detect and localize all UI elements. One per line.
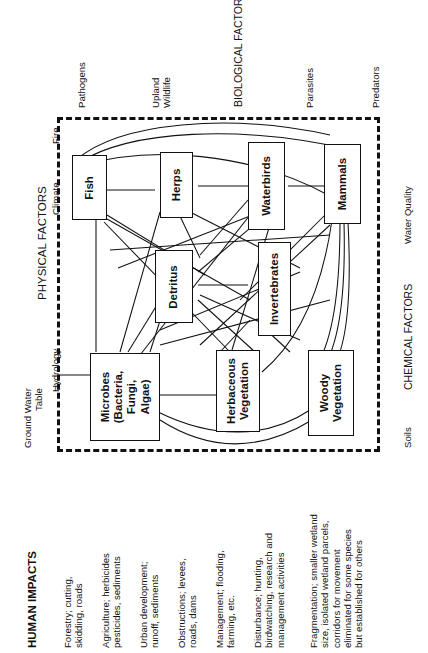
node-herps[interactable]: Herps [160,152,193,218]
node-mammals[interactable]: Mammals [324,144,361,224]
node-microbes-label: Microbes (Bacteria, Fungi, Algae) [99,371,152,423]
node-detritus-label: Detritus [167,265,180,308]
node-mammals-label: Mammals [336,158,349,210]
node-waterbirds[interactable]: Waterbirds [248,142,285,230]
node-herbaceous-vegetation[interactable]: Herbaceous Vegetation [216,350,260,432]
wetland-ecosystem-diagram: Fish Herps Waterbirds Mammals Detritus I… [0,0,428,653]
node-woody-vegetation[interactable]: Woody Vegetation [308,350,354,436]
node-detritus[interactable]: Detritus [155,250,193,323]
node-fish-label: Fish [83,176,96,200]
node-herbaceous-vegetation-label: Herbaceous Vegetation [225,358,251,424]
edge-curve-1 [76,123,330,160]
node-herps-label: Herps [170,169,183,202]
connection-edges [0,0,428,653]
node-fish[interactable]: Fish [72,155,107,220]
node-waterbirds-label: Waterbirds [260,156,273,216]
edge-detritus-herbaceous [198,300,255,352]
edge-herps-microbes [120,212,160,352]
node-invertebrates-label: Invertebrates [268,253,281,325]
node-invertebrates[interactable]: Invertebrates [258,242,291,336]
node-woody-vegetation-label: Woody Vegetation [318,364,344,422]
node-microbes[interactable]: Microbes (Bacteria, Fungi, Algae) [90,353,160,441]
